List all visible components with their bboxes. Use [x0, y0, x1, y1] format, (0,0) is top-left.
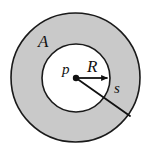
label-outer-segment: s	[114, 81, 120, 96]
center-point-dot	[73, 75, 79, 81]
annulus-diagram-canvas	[0, 0, 153, 158]
label-inner-radius: R	[87, 58, 97, 75]
label-annulus-region: A	[38, 33, 48, 50]
label-center-point: p	[62, 62, 70, 77]
annulus-diagram: A p R s	[0, 0, 153, 158]
